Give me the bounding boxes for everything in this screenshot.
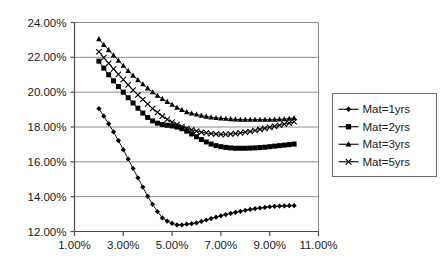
data-point-marker-square	[238, 146, 243, 151]
data-point-marker-square	[262, 145, 267, 150]
y-axis-label-6: 24.00%	[27, 17, 66, 29]
legend-item-label: Mat=5yrs	[363, 156, 411, 168]
legend-item-label: Mat=1yrs	[363, 103, 411, 115]
data-point-marker-square	[160, 122, 165, 127]
data-point-marker-square	[233, 146, 238, 151]
line-chart: 12.00%14.00%16.00%18.00%20.00%22.00%24.0…	[0, 0, 443, 269]
data-point-marker-square	[131, 100, 136, 105]
data-point-marker-square	[257, 145, 262, 150]
data-point-marker-square	[126, 95, 131, 100]
data-point-marker-square	[121, 90, 126, 95]
y-axis-label-4: 20.00%	[27, 86, 66, 98]
data-point-marker-square	[204, 139, 209, 144]
data-point-marker-square	[135, 106, 140, 111]
y-axis-label-0: 12.00%	[27, 226, 66, 238]
data-point-marker-square	[277, 143, 282, 148]
data-point-marker-square	[287, 142, 292, 147]
data-point-marker-square	[243, 146, 248, 151]
x-axis-label-1: 3.00%	[107, 239, 140, 251]
x-axis-label-0: 1.00%	[58, 239, 91, 251]
data-point-marker-square	[140, 111, 145, 116]
data-point-marker-square	[214, 143, 219, 148]
data-point-marker-square	[209, 142, 214, 147]
data-point-marker-square	[111, 78, 116, 83]
x-axis-label-2: 5.00%	[156, 239, 189, 251]
data-point-marker-square	[253, 145, 258, 150]
data-point-marker-square	[223, 145, 228, 150]
data-point-marker-square	[346, 124, 351, 129]
data-point-marker-square	[218, 144, 223, 149]
data-point-marker-square	[248, 146, 253, 151]
x-axis-label-5: 11.00%	[299, 239, 337, 251]
data-point-marker-square	[145, 115, 150, 120]
chart-legend: Mat=1yrsMat=2yrsMat=3yrsMat=5yrs	[333, 94, 437, 177]
data-point-marker-square	[282, 143, 287, 148]
y-axis-label-2: 16.00%	[27, 156, 66, 168]
data-point-marker-square	[150, 118, 155, 123]
y-axis-label-5: 22.00%	[27, 51, 66, 63]
data-point-marker-square	[165, 123, 170, 128]
data-point-marker-square	[116, 84, 121, 89]
data-point-marker-square	[199, 137, 204, 142]
data-point-marker-square	[101, 66, 106, 71]
x-axis-label-3: 7.00%	[205, 239, 238, 251]
y-axis-label-1: 14.00%	[27, 191, 66, 203]
data-point-marker-square	[106, 72, 111, 77]
data-point-marker-square	[96, 59, 101, 64]
data-point-marker-square	[155, 121, 160, 126]
data-point-marker-square	[194, 134, 199, 139]
y-axis-label-3: 18.00%	[27, 121, 66, 133]
data-point-marker-square	[272, 144, 277, 149]
data-point-marker-square	[267, 144, 272, 149]
x-axis-label-4: 9.00%	[253, 239, 286, 251]
chart-container: 12.00%14.00%16.00%18.00%20.00%22.00%24.0…	[0, 0, 443, 269]
legend-item-label: Mat=2yrs	[363, 121, 411, 133]
data-point-marker-square	[228, 145, 233, 150]
data-point-marker-square	[292, 142, 297, 147]
legend-item-label: Mat=3yrs	[363, 138, 411, 150]
